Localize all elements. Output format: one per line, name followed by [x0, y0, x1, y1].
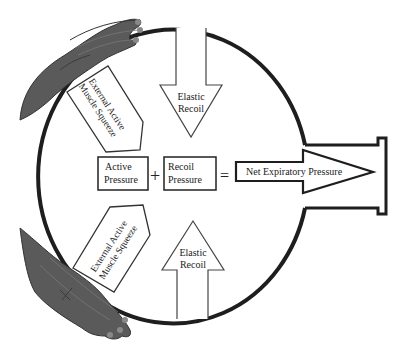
active-pressure-line2: Pressure — [104, 174, 138, 185]
equals-sign: = — [220, 167, 229, 184]
diagram-canvas: Elastic Recoil Elastic Recoil External A… — [0, 0, 404, 353]
muscle-squeeze-arrow-upper: External Active Muscle Squeeze — [67, 66, 143, 152]
plus-sign: + — [150, 166, 160, 186]
net-expiratory-pressure-arrow: Net Expiratory Pressure — [236, 150, 373, 193]
elastic-recoil-arrow-bottom: Elastic Recoil — [162, 221, 224, 319]
recoil-pressure-box: Recoil Pressure — [164, 157, 216, 190]
top-arrow-label-line1: Elastic — [177, 91, 205, 102]
recoil-pressure-line1: Recoil — [168, 161, 194, 172]
recoil-pressure-line2: Pressure — [168, 174, 202, 185]
top-arrow-label-line2: Recoil — [178, 103, 204, 114]
bottom-arrow-label-line1: Elastic — [179, 247, 207, 258]
elastic-recoil-arrow-top: Elastic Recoil — [160, 28, 222, 137]
net-expiratory-pressure-label: Net Expiratory Pressure — [246, 166, 343, 177]
bottom-arrow-label-line2: Recoil — [180, 259, 206, 270]
active-pressure-line1: Active — [105, 161, 132, 172]
active-pressure-box: Active Pressure — [98, 157, 148, 190]
